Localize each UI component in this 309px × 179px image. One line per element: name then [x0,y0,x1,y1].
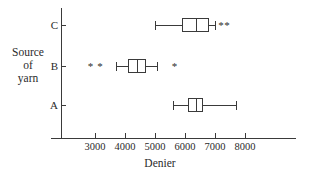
x-axis-tick [185,133,186,138]
y-axis-line [61,8,62,139]
x-axis-title: Denier [120,157,200,170]
outlier-marker: * [86,62,95,70]
whisker-high-cap [236,101,237,110]
y-axis-category-label-a: A [44,100,58,111]
whisker-high-cap [157,62,158,71]
y-axis-category-label-b: B [44,61,58,72]
x-axis-tick [245,133,246,138]
x-axis-tick [95,133,96,138]
whisker-low-cap [173,101,174,110]
whisker-low-line [116,66,128,67]
whisker-high-line [203,105,236,106]
median-line [196,98,197,112]
x-axis-tick [215,133,216,138]
x-axis-tick [125,133,126,138]
y-axis-title-line-1: Source [2,46,54,59]
y-axis-tick [62,66,66,67]
whisker-low-cap [155,21,156,30]
outlier-marker: * [223,21,232,29]
x-axis-line [51,138,296,139]
y-axis-category-label-c: C [44,20,58,31]
outlier-marker: * [170,62,179,70]
whisker-low-cap [116,62,117,71]
whisker-low-line [155,25,182,26]
whisker-low-line [173,105,188,106]
y-axis-tick [62,105,66,106]
y-axis-tick [62,25,66,26]
x-axis-tick [155,133,156,138]
y-axis-title-line-3: yarn [2,72,54,85]
median-line [137,59,138,73]
boxplot-chart: Source of yarn Denier 300040005000600070… [0,0,309,179]
x-axis-tick-label: 8000 [225,141,265,152]
outlier-marker: * [96,62,105,70]
whisker-high-line [146,66,157,67]
median-line [196,18,197,32]
